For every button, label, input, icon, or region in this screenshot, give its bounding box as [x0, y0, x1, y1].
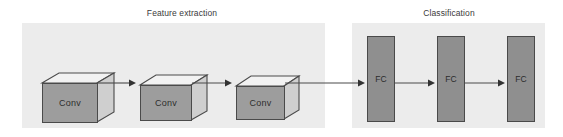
fc-block-1-label: FC	[375, 75, 387, 84]
fc-block-2[interactable]: FC	[437, 36, 465, 122]
fc-block-3-label: FC	[515, 75, 527, 84]
conv-block-2-label: Conv	[155, 99, 177, 108]
fc-block-2-label: FC	[445, 75, 457, 84]
conv-block-2-front: Conv	[140, 85, 192, 121]
arrow-conv2-to-conv3	[192, 76, 234, 90]
diagram-canvas: Feature extraction Classification Conv C…	[0, 0, 563, 137]
fc-block-3[interactable]: FC	[507, 36, 535, 122]
arrow-conv3-to-fc1	[285, 76, 367, 90]
conv-block-3-front: Conv	[236, 86, 285, 120]
conv-block-1-label: Conv	[59, 99, 81, 108]
conv-block-1-front: Conv	[42, 83, 98, 123]
arrow-conv1-to-conv2	[98, 76, 138, 90]
conv-block-3-label: Conv	[250, 99, 272, 108]
section-title-classification: Classification	[399, 8, 499, 18]
fc-block-1[interactable]: FC	[367, 36, 395, 122]
arrow-fc2-to-fc3	[465, 76, 507, 90]
arrow-fc1-to-fc2	[395, 76, 437, 90]
section-title-feature-extraction: Feature extraction	[122, 8, 242, 18]
